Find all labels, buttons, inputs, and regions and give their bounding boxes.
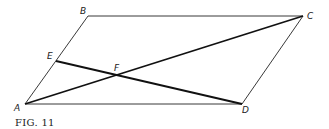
side-ab [25, 16, 88, 104]
segment-ed [56, 61, 242, 104]
label-a: A [13, 103, 20, 113]
label-e: E [47, 51, 53, 61]
label-c: C [307, 11, 314, 21]
figure-caption: FIG. 11 [15, 117, 55, 128]
label-b: B [80, 6, 86, 16]
diagonal-ac [25, 16, 303, 104]
side-cd [242, 16, 303, 104]
parallelogram-figure: A B C D E F FIG. 11 [0, 0, 329, 129]
label-d: D [242, 105, 249, 115]
label-f: F [114, 63, 120, 73]
